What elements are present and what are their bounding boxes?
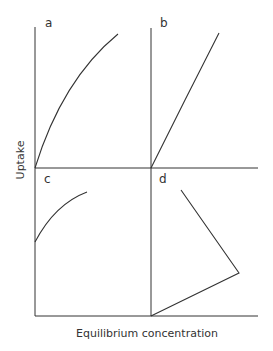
isotherm-diagram: a b c d Uptake Equilibrium concentration bbox=[0, 0, 273, 351]
panel-c-label: c bbox=[44, 172, 51, 186]
panel-d-label: d bbox=[159, 172, 167, 186]
panel-d-line bbox=[151, 190, 239, 316]
panel-b-line bbox=[151, 33, 219, 168]
x-axis-label: Equilibrium concentration bbox=[76, 327, 218, 340]
panel-a-label: a bbox=[45, 16, 52, 30]
y-axis-label: Uptake bbox=[14, 140, 27, 179]
curves bbox=[35, 33, 239, 316]
panel-c-curve bbox=[35, 192, 87, 242]
panel-a-curve bbox=[35, 34, 118, 168]
panel-b-label: b bbox=[160, 16, 168, 30]
axes bbox=[35, 27, 258, 316]
